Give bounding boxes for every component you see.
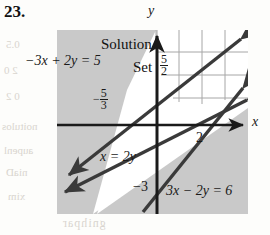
minus-sign: − <box>93 92 100 106</box>
fraction-denominator: 3 <box>100 99 108 111</box>
bleed-text: noitulos <box>2 120 37 132</box>
bleed-text: xim <box>8 190 25 202</box>
bleed-text: aupenl <box>4 144 33 156</box>
bleed-text: 0 2 <box>6 90 20 102</box>
exercise-figure-page: 0.5 2 0 0 2 noitulos aupenl niaD xim gni… <box>0 0 270 235</box>
tick-label-x-two: 2 <box>196 131 203 145</box>
bleed-text: 0.5 <box>6 38 20 50</box>
tick-label-five-halves: 5 2 <box>160 54 168 78</box>
y-axis-label: y <box>148 4 154 18</box>
equation-label-line-2: 3x − 2y = 6 <box>166 184 232 198</box>
equation-label-line-1: −3x + 2y = 5 <box>25 54 101 68</box>
bleed-text: niaD <box>6 166 27 178</box>
solution-set-label-line1: Solution <box>101 36 152 53</box>
solution-set-label-line2: Set <box>133 59 152 76</box>
tick-label-y-neg-three: −3 <box>133 180 148 194</box>
exercise-number: 23. <box>4 2 25 22</box>
bleed-text: 2 0 <box>4 64 18 76</box>
tick-label-neg-five-thirds: − 5 3 <box>93 88 108 112</box>
bleed-text: gnihpar <box>62 216 106 231</box>
fraction-denominator: 2 <box>160 65 168 77</box>
equation-label-line-3: x = 2y <box>100 150 136 164</box>
x-axis-label: x <box>252 115 258 129</box>
